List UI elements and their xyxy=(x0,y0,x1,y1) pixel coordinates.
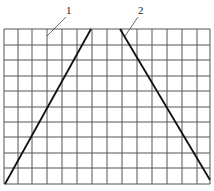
callout-label-2: 2 xyxy=(138,4,144,16)
leader-line-1 xyxy=(47,17,66,36)
callout-label-1: 1 xyxy=(66,4,72,16)
grid xyxy=(4,29,210,184)
leader-line-2 xyxy=(125,17,138,36)
diagram-canvas: 12 xyxy=(0,0,214,191)
callout-labels: 12 xyxy=(47,4,144,36)
